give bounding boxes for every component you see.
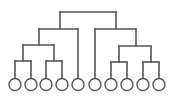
tree-leaves bbox=[9, 79, 165, 91]
tree-diagram bbox=[0, 0, 177, 105]
leaf-node-leaf-2 bbox=[25, 79, 37, 91]
leaf-node-leaf-6 bbox=[89, 79, 101, 91]
leaf-node-leaf-3 bbox=[40, 79, 52, 91]
leaf-node-leaf-8 bbox=[121, 79, 133, 91]
leaf-node-leaf-9 bbox=[137, 79, 149, 91]
leaf-node-leaf-4 bbox=[56, 79, 68, 91]
leaf-node-leaf-1 bbox=[9, 79, 21, 91]
leaf-node-leaf-5 bbox=[72, 79, 84, 91]
leaf-node-leaf-7 bbox=[105, 79, 117, 91]
tree-edges bbox=[15, 12, 159, 79]
leaf-node-leaf-10 bbox=[153, 79, 165, 91]
